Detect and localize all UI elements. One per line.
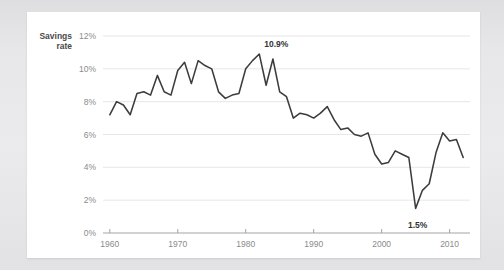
x-tick-label: 1990 [304, 239, 323, 249]
y-tick-label: 6% [84, 130, 97, 140]
gridlines-group [103, 36, 470, 200]
x-tick-label: 1980 [236, 239, 255, 249]
x-tick-label: 2010 [440, 239, 459, 249]
series-label-line1: Savings [39, 31, 72, 41]
savings-rate-line-chart: 0%2%4%6%8%10%12% 19601970198019902000201… [27, 12, 480, 258]
x-axis-tick-marks [110, 229, 450, 233]
y-tick-label: 0% [84, 228, 97, 238]
chart-card: 0%2%4%6%8%10%12% 19601970198019902000201… [27, 12, 480, 258]
annotation-label: 10.9% [264, 39, 289, 49]
y-tick-label: 12% [79, 31, 96, 41]
x-axis-tick-labels: 196019701980199020002010 [100, 239, 459, 249]
savings-rate-line [110, 54, 463, 208]
x-tick-label: 1960 [100, 239, 119, 249]
y-tick-label: 8% [84, 97, 97, 107]
y-axis-tick-labels: 0%2%4%6%8%10%12% [79, 31, 96, 238]
y-tick-label: 10% [79, 64, 96, 74]
y-tick-label: 2% [84, 195, 97, 205]
annotation-label: 1.5% [408, 220, 428, 230]
y-tick-label: 4% [84, 162, 97, 172]
x-tick-label: 1970 [168, 239, 187, 249]
x-tick-label: 2000 [372, 239, 391, 249]
series-label-line2: rate [56, 41, 72, 51]
